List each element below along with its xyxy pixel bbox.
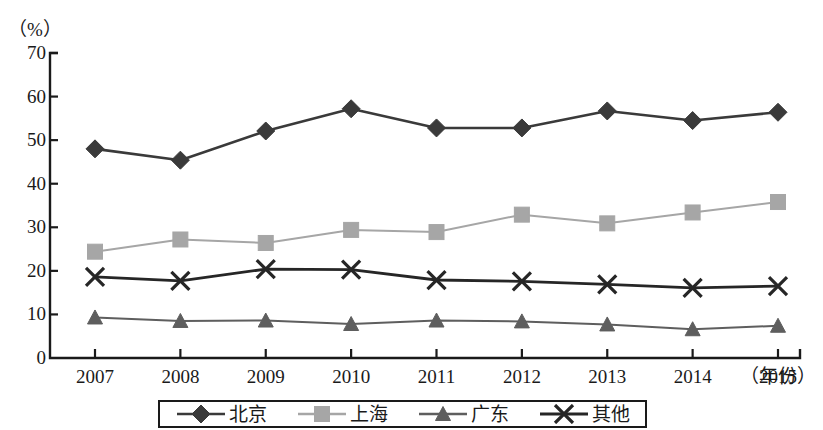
x-tick-label: 2011 (397, 367, 477, 386)
square-marker (314, 407, 329, 422)
legend-label: 广东 (471, 405, 509, 424)
legend-label: 北京 (229, 405, 267, 424)
legend-diamond-icon (175, 404, 227, 424)
legend-item-北京[interactable]: 北京 (171, 404, 271, 424)
x-tick-label: 2008 (140, 367, 220, 386)
x-tick-label: 2012 (482, 367, 562, 386)
legend-item-其他[interactable]: 其他 (534, 404, 634, 424)
x-tick-label: 2014 (653, 367, 733, 386)
legend-item-广东[interactable]: 广东 (413, 404, 513, 424)
chart-container: （%） 010203040506070 20072008200920102011… (0, 0, 823, 430)
x-tick-label: 2007 (55, 367, 135, 386)
legend-square-icon (296, 404, 348, 424)
data-point-square (314, 407, 329, 422)
x-tick-label: 2009 (226, 367, 306, 386)
x-axis-unit-label: （年份） (740, 367, 816, 386)
x-tick-label: 2013 (567, 367, 647, 386)
x-axis-tick-labels: 200720082009201020112012201320142015 (0, 0, 823, 430)
chart-legend: 北京上海广东其他 (158, 400, 647, 428)
legend-triangle-icon (417, 404, 469, 424)
legend-cross-icon (538, 404, 590, 424)
diamond-marker (192, 405, 210, 423)
legend-label: 上海 (350, 405, 388, 424)
legend-label: 其他 (592, 405, 630, 424)
x-tick-label: 2010 (311, 367, 391, 386)
legend-item-上海[interactable]: 上海 (292, 404, 392, 424)
data-point-diamond (192, 405, 210, 423)
